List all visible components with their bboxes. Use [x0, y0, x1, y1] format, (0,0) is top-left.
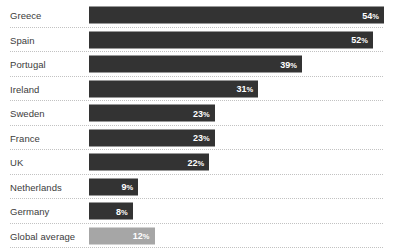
percent-sign: % — [203, 109, 210, 118]
bar-track: 23% — [89, 105, 383, 122]
bar-track: 31% — [89, 80, 383, 97]
bar[interactable]: 8% — [89, 203, 133, 220]
bar-track: 9% — [89, 178, 383, 195]
bar[interactable]: 22% — [89, 154, 209, 171]
percent-sign: % — [126, 183, 133, 192]
percent-sign: % — [121, 207, 128, 216]
category-label: Netherlands — [10, 181, 62, 192]
percent-sign: % — [203, 134, 210, 143]
bar-track: 54% — [89, 7, 383, 24]
chart-row: Ireland31% — [0, 77, 397, 102]
bar-track: 52% — [89, 31, 383, 48]
bar-track: 12% — [89, 227, 383, 244]
bar[interactable]: 31% — [89, 80, 258, 97]
bar-value-label: 12% — [133, 231, 150, 241]
category-label: France — [10, 132, 40, 143]
bar[interactable]: 52% — [89, 31, 373, 48]
chart-row: Spain52% — [0, 28, 397, 53]
bar-value-number: 52 — [351, 35, 361, 45]
percent-sign: % — [197, 158, 204, 167]
chart-row: Greece54% — [0, 3, 397, 28]
bar-value-label: 9% — [121, 182, 133, 192]
bar-track: 23% — [89, 129, 383, 146]
bar-value-label: 31% — [237, 84, 254, 94]
bar-track: 39% — [89, 56, 383, 73]
category-label: Ireland — [10, 83, 39, 94]
bar[interactable]: 12% — [89, 227, 155, 244]
chart-row: Sweden23% — [0, 101, 397, 126]
bar-value-number: 31 — [237, 84, 247, 94]
chart-row: Germany8% — [0, 199, 397, 224]
bar-value-label: 8% — [116, 206, 128, 216]
gridline — [10, 246, 383, 248]
bar[interactable]: 23% — [89, 129, 215, 146]
category-label: Germany — [10, 206, 49, 217]
bar-value-label: 23% — [193, 108, 210, 118]
bar[interactable]: 39% — [89, 56, 302, 73]
chart-row: France23% — [0, 126, 397, 151]
horizontal-bar-chart: Greece54%Spain52%Portugal39%Ireland31%Sw… — [0, 0, 397, 249]
bar-track: 8% — [89, 203, 383, 220]
bar-value-label: 39% — [280, 59, 297, 69]
percent-sign: % — [290, 60, 297, 69]
category-label: Global average — [10, 230, 75, 241]
category-label: Sweden — [10, 108, 45, 119]
bar[interactable]: 9% — [89, 178, 138, 195]
percent-sign: % — [372, 11, 379, 20]
bar-value-number: 12 — [133, 231, 143, 241]
bar[interactable]: 54% — [89, 7, 384, 24]
bar-track: 22% — [89, 154, 383, 171]
bar[interactable]: 23% — [89, 105, 215, 122]
chart-row: Portugal39% — [0, 52, 397, 77]
chart-row: UK22% — [0, 150, 397, 175]
category-label: Portugal — [10, 59, 46, 70]
bar-value-label: 52% — [351, 35, 368, 45]
bar-value-label: 23% — [193, 133, 210, 143]
bar-value-number: 22 — [187, 157, 197, 167]
percent-sign: % — [247, 85, 254, 94]
category-label: Greece — [10, 10, 41, 21]
category-label: UK — [10, 157, 23, 168]
bar-value-number: 23 — [193, 108, 203, 118]
bar-value-number: 23 — [193, 133, 203, 143]
bar-value-number: 39 — [280, 59, 290, 69]
bar-value-label: 54% — [362, 10, 379, 20]
category-label: Spain — [10, 34, 35, 45]
bar-value-label: 22% — [187, 157, 204, 167]
percent-sign: % — [361, 36, 368, 45]
percent-sign: % — [143, 232, 150, 241]
chart-row: Global average12% — [0, 224, 397, 249]
bar-value-number: 54 — [362, 10, 372, 20]
chart-row: Netherlands9% — [0, 175, 397, 200]
